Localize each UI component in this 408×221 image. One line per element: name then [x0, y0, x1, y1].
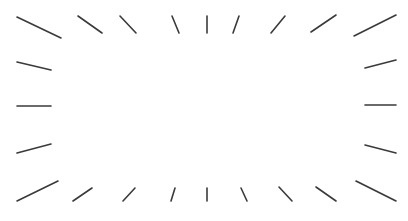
ray-line-top-9 — [354, 15, 396, 36]
ray-line-top-6 — [233, 16, 239, 33]
empty-center-area — [70, 45, 350, 175]
ray-line-left-1 — [17, 62, 51, 70]
ray-line-bottom-2 — [73, 188, 92, 201]
ray-line-right-3 — [365, 145, 396, 153]
ray-line-top-1 — [17, 17, 61, 38]
burst-frame-figure — [0, 0, 408, 221]
ray-line-bottom-6 — [241, 188, 247, 201]
ray-line-top-3 — [120, 16, 136, 33]
ray-line-left-3 — [17, 144, 51, 153]
ray-line-top-4 — [172, 16, 179, 33]
ray-line-top-7 — [271, 16, 285, 33]
ray-line-bottom-1 — [17, 181, 58, 201]
ray-line-top-2 — [78, 16, 102, 33]
ray-line-top-8 — [311, 15, 336, 32]
ray-line-bottom-3 — [123, 188, 135, 201]
ray-line-bottom-9 — [356, 181, 396, 201]
ray-line-bottom-7 — [279, 187, 292, 201]
ray-line-bottom-8 — [316, 187, 336, 201]
ray-line-right-1 — [365, 60, 396, 68]
ray-line-bottom-4 — [171, 188, 175, 201]
